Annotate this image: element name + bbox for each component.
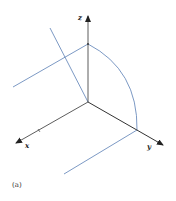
z-point bbox=[87, 43, 89, 45]
lower-line bbox=[64, 130, 137, 174]
diagonal-line bbox=[50, 28, 88, 102]
blue-lines bbox=[13, 28, 137, 174]
y-axis-label: y bbox=[147, 143, 151, 150]
y-axis bbox=[88, 102, 163, 145]
diagram-canvas bbox=[0, 0, 176, 201]
axes bbox=[16, 16, 163, 145]
figure-caption: (a) bbox=[12, 182, 22, 189]
x-axis-label: x bbox=[25, 142, 29, 149]
3d-axes-diagram: z x y (a) bbox=[0, 0, 176, 201]
quarter-arc bbox=[88, 44, 137, 130]
z-axis-label: z bbox=[78, 14, 82, 21]
x-axis bbox=[16, 102, 88, 143]
